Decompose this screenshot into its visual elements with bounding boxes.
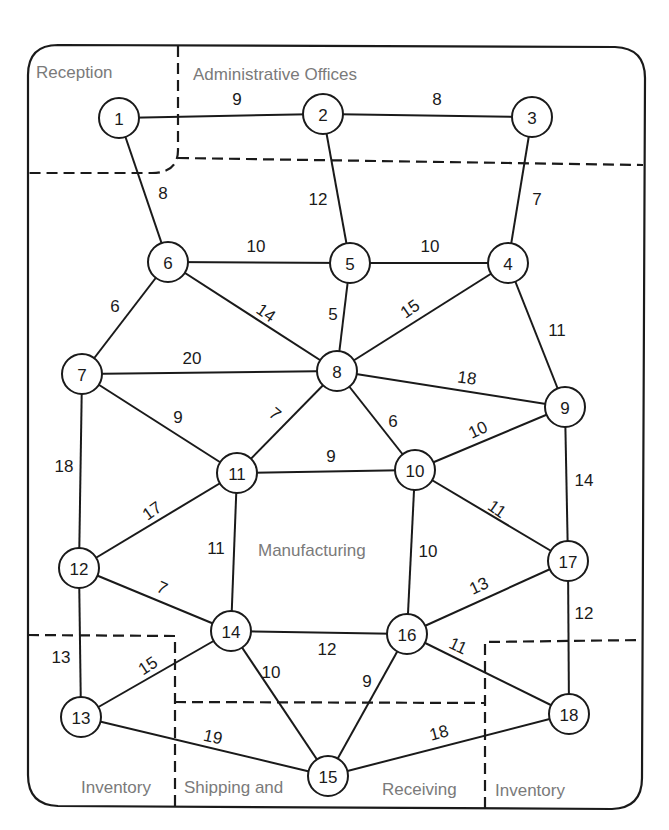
node-10: 10	[395, 450, 435, 490]
edge-weight-1-2: 9	[232, 90, 241, 109]
edge-7-12	[79, 374, 82, 568]
edge-3-4	[508, 117, 532, 263]
node-16: 16	[387, 614, 427, 654]
region-label-inventory-right: Inventory	[495, 781, 565, 800]
edge-weight-2-3: 8	[432, 90, 441, 109]
edge-10-9	[415, 407, 565, 470]
edge-weight-5-8: 5	[328, 305, 337, 324]
region-label-shipping: Shipping and	[184, 778, 283, 797]
node-3: 3	[512, 97, 552, 137]
node-14: 14	[211, 611, 251, 651]
edge-weight-8-10: 6	[388, 412, 397, 431]
node-label: 5	[345, 255, 354, 274]
node-6: 6	[148, 242, 188, 282]
node-17: 17	[548, 541, 588, 581]
edge-weight-8-11: 7	[265, 404, 284, 425]
node-label: 9	[560, 399, 569, 418]
node-label: 10	[406, 462, 425, 481]
edge-weight-5-4: 10	[421, 237, 440, 256]
region-label-admin: Administrative Offices	[193, 65, 357, 84]
edge-weight-10-17: 11	[484, 496, 509, 522]
edge-10-16	[407, 470, 415, 634]
edge-weight-16-15: 9	[362, 672, 371, 691]
edge-weight-12-13: 13	[52, 648, 71, 667]
edge-weight-7-11: 9	[173, 408, 182, 427]
edge-weight-14-15: 10	[262, 663, 281, 682]
node-4: 4	[488, 243, 528, 283]
node-label: 18	[560, 706, 579, 725]
region-label-manufacturing: Manufacturing	[258, 541, 366, 560]
node-label: 11	[228, 465, 246, 484]
node-13: 13	[61, 697, 101, 737]
node-1: 1	[99, 98, 139, 138]
edge-9-17	[565, 407, 568, 561]
node-label: 1	[114, 110, 123, 129]
edge-weight-14-16: 12	[318, 640, 337, 659]
node-label: 17	[559, 553, 578, 572]
edge-weight-17-18: 12	[575, 604, 594, 623]
edge-weight-6-5: 10	[247, 237, 266, 256]
edge-weight-6-8: 14	[253, 300, 279, 326]
edge-7-8	[82, 371, 337, 374]
region-label-reception: Reception	[36, 63, 113, 82]
edge-weight-2-5: 12	[309, 190, 328, 209]
edge-2-3	[323, 114, 532, 117]
edge-11-10	[237, 470, 415, 473]
edge-16-17	[407, 561, 568, 634]
node-label: 12	[70, 560, 89, 579]
edge-weight-13-14: 15	[135, 653, 161, 679]
edge-weight-11-12: 17	[139, 498, 165, 524]
edge-6-7	[82, 262, 168, 374]
edge-weight-7-8: 20	[183, 349, 202, 368]
edge-weight-4-9: 11	[548, 321, 566, 340]
node-label: 14	[222, 623, 241, 642]
edge-14-16	[231, 631, 407, 634]
edge-weight-15-18: 18	[427, 721, 450, 744]
node-5: 5	[330, 243, 370, 283]
node-9: 9	[545, 387, 585, 427]
node-label: 3	[527, 109, 536, 128]
shipping-divider	[175, 702, 485, 703]
edge-weight-7-12: 18	[55, 457, 74, 476]
node-7: 7	[62, 354, 102, 394]
edge-8-9	[337, 371, 565, 407]
edge-17-18	[568, 561, 569, 714]
node-label: 7	[77, 366, 86, 385]
edge-weight-12-14: 7	[154, 577, 171, 598]
edge-16-15	[328, 634, 407, 776]
edge-8-11	[237, 371, 337, 473]
edge-1-2	[119, 114, 323, 118]
edge-weight-16-17: 13	[466, 573, 491, 598]
node-2: 2	[303, 94, 343, 134]
edges	[79, 114, 569, 776]
edge-weight-11-10: 9	[326, 447, 335, 466]
edge-12-13	[79, 568, 81, 717]
edge-12-14	[79, 568, 231, 631]
edge-weight-8-9: 18	[456, 367, 477, 388]
admin-divider	[178, 158, 643, 165]
edge-weight-1-6: 8	[158, 184, 167, 203]
node-15: 15	[308, 756, 348, 796]
node-label: 16	[398, 626, 417, 645]
node-label: 8	[332, 363, 341, 382]
edge-7-11	[82, 374, 237, 473]
edge-weight-11-14: 11	[207, 539, 225, 558]
node-label: 6	[163, 254, 172, 273]
edge-11-14	[231, 473, 237, 631]
node-label: 15	[319, 768, 338, 787]
edge-weight-6-7: 6	[110, 297, 119, 316]
node-8: 8	[317, 351, 357, 391]
node-label: 2	[318, 106, 327, 125]
edge-weights: 9881271010614515112018976109181411171110…	[52, 90, 594, 749]
edge-15-18	[328, 714, 569, 776]
edge-weight-9-17: 14	[575, 471, 594, 490]
facility-network-diagram: ReceptionAdministrative OfficesManufactu…	[0, 0, 669, 830]
edge-weight-3-4: 7	[532, 190, 541, 209]
edge-weight-13-15: 19	[202, 726, 224, 749]
edge-13-15	[81, 717, 328, 776]
node-label: 4	[503, 255, 512, 274]
node-18: 18	[549, 694, 589, 734]
edge-2-5	[323, 114, 350, 263]
region-label-receiving: Receiving	[382, 780, 457, 799]
region-label-inventory-left: Inventory	[81, 778, 151, 797]
